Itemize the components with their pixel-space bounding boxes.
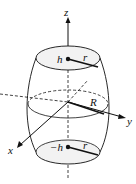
top-radius-label: r [83,51,88,63]
top-center-point [66,57,70,61]
middle-radius-line [68,102,104,114]
middle-radius-label: R [89,96,97,108]
bottom-height-label: −h [50,141,63,153]
x-axis-label: x [7,144,13,156]
x-axis-arrowhead-icon [17,141,23,148]
y-axis-hidden [0,94,68,102]
y-axis-label: y [126,115,132,127]
top-height-label: h [57,53,63,65]
y-axis-arrowhead-icon [118,114,126,119]
z-axis-label: z [63,6,69,18]
diagram-canvas: z y x h r R −h r [0,0,136,184]
bottom-radius-label: r [83,139,88,151]
bottom-center-point [66,145,70,149]
